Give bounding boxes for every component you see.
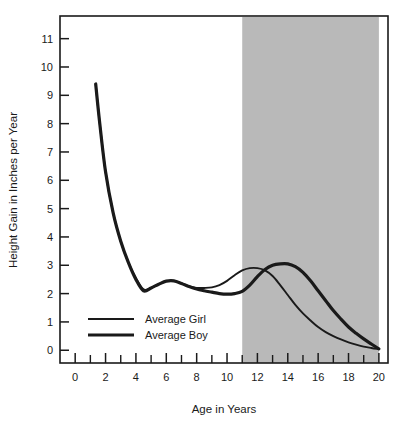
- legend-label: Average Boy: [145, 329, 208, 341]
- x-tick-label: 10: [221, 371, 233, 383]
- y-tick-label: 10: [41, 61, 53, 73]
- chart-container: 01234567891011 02468101214161820 Average…: [0, 0, 403, 426]
- y-tick-label: 0: [47, 344, 53, 356]
- x-tick-label: 14: [282, 371, 294, 383]
- shaded-band-group: [242, 17, 379, 363]
- y-tick-label: 6: [47, 174, 53, 186]
- x-tick-label: 16: [312, 371, 324, 383]
- chart-legend: Average GirlAverage Boy: [88, 313, 208, 341]
- x-tick-label: 2: [102, 371, 108, 383]
- shaded-band: [242, 17, 379, 363]
- x-tick-label: 18: [342, 371, 354, 383]
- y-tick-label: 11: [42, 33, 53, 45]
- x-tick-label: 0: [72, 371, 78, 383]
- y-tick-label: 9: [47, 89, 53, 101]
- x-tick-label: 12: [251, 371, 263, 383]
- x-tick-label: 4: [133, 371, 139, 383]
- x-axis-title: Age in Years: [192, 403, 257, 415]
- y-tick-label: 4: [47, 231, 53, 243]
- y-tick-label: 8: [47, 118, 53, 130]
- x-tick-label: 8: [194, 371, 200, 383]
- legend-label: Average Girl: [145, 313, 206, 325]
- y-tick-label: 1: [47, 316, 53, 328]
- y-tick-label: 5: [47, 203, 53, 215]
- y-tick-label: 7: [47, 146, 53, 158]
- y-axis: 01234567891011: [41, 33, 69, 357]
- x-tick-label: 20: [373, 371, 385, 383]
- height-velocity-chart: 01234567891011 02468101214161820 Average…: [0, 0, 403, 426]
- x-tick-label: 6: [163, 371, 169, 383]
- y-tick-label: 3: [47, 259, 53, 271]
- y-tick-label: 2: [47, 288, 53, 300]
- y-axis-title: Height Gain in Inches per Year: [7, 112, 19, 268]
